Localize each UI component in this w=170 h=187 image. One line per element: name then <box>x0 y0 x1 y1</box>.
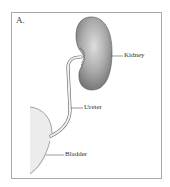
ureter-label: Ureter <box>84 103 102 111</box>
kidney-shape <box>76 17 112 90</box>
bladder-label: Bladder <box>65 150 87 158</box>
ureter-shape <box>51 57 81 136</box>
kidney-label: Kidney <box>124 51 145 59</box>
bladder-shape <box>30 107 52 174</box>
urinary-system-illustration <box>0 0 170 187</box>
